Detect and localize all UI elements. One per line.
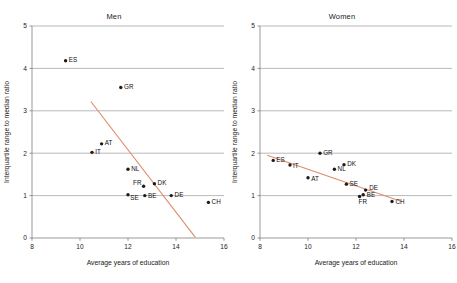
- y-tick-label-4: 4: [251, 65, 255, 72]
- data-point-IT: [288, 163, 291, 166]
- data-point-label-BE: BE: [148, 192, 156, 199]
- data-point-label-IT: IT: [293, 162, 299, 169]
- data-point-GR: [119, 86, 122, 89]
- x-tick-label-8: 8: [258, 243, 262, 250]
- data-point-label-DK: DK: [347, 160, 357, 167]
- data-point-DE: [170, 194, 173, 197]
- data-point-label-GR: GR: [124, 83, 134, 90]
- chart-panel-women: Women 012345810121416Average years of ed…: [228, 0, 456, 283]
- data-point-DK: [153, 182, 156, 185]
- y-tick-label-0: 0: [251, 234, 255, 241]
- x-axis-title: Average years of education: [315, 259, 398, 267]
- data-point-NL: [126, 168, 129, 171]
- data-point-label-SE: SE: [130, 194, 138, 201]
- data-point-label-CH: CH: [395, 198, 405, 205]
- data-point-label-GR: GR: [323, 149, 333, 156]
- trend-line: [91, 101, 195, 237]
- x-axis-title: Average years of education: [87, 259, 170, 267]
- data-point-DK: [342, 163, 345, 166]
- data-point-label-CH: CH: [212, 198, 222, 205]
- figure-container: Men 012345810121416Average years of educ…: [0, 0, 457, 283]
- data-point-ES: [64, 59, 67, 62]
- data-point-label-DK: DK: [158, 179, 168, 186]
- data-point-label-FR: FR: [133, 179, 142, 186]
- y-tick-label-4: 4: [23, 65, 27, 72]
- x-tick-label-16: 16: [448, 243, 456, 250]
- data-point-label-NL: NL: [338, 165, 347, 172]
- y-tick-label-5: 5: [251, 22, 255, 29]
- data-point-FR: [142, 185, 145, 188]
- x-tick-label-16: 16: [220, 243, 228, 250]
- y-tick-label-0: 0: [23, 234, 27, 241]
- data-point-GR: [318, 152, 321, 155]
- data-point-ES: [272, 159, 275, 162]
- y-tick-label-2: 2: [23, 150, 27, 157]
- data-point-label-NL: NL: [131, 165, 140, 172]
- x-tick-label-8: 8: [30, 243, 34, 250]
- y-axis-title: Interquartile range to median ratio: [231, 81, 239, 183]
- data-point-IT: [90, 151, 93, 154]
- y-tick-label-1: 1: [251, 192, 255, 199]
- y-tick-label-3: 3: [23, 107, 27, 114]
- data-point-SE: [345, 182, 348, 185]
- data-point-BE: [362, 193, 365, 196]
- data-point-label-IT: IT: [95, 148, 101, 155]
- data-point-label-AT: AT: [105, 139, 113, 146]
- data-point-label-ES: ES: [276, 156, 284, 163]
- data-point-label-SE: SE: [350, 180, 358, 187]
- x-tick-label-10: 10: [76, 243, 84, 250]
- y-tick-label-5: 5: [23, 22, 27, 29]
- data-point-label-FR: FR: [359, 198, 368, 205]
- scatter-plot-men: 012345810121416Average years of educatio…: [0, 0, 228, 283]
- data-point-SE: [126, 193, 129, 196]
- data-point-label-ES: ES: [69, 56, 77, 63]
- y-tick-label-3: 3: [251, 107, 255, 114]
- x-tick-label-12: 12: [352, 243, 360, 250]
- data-point-AT: [306, 176, 309, 179]
- data-point-label-DE: DE: [175, 191, 184, 198]
- x-tick-label-10: 10: [304, 243, 312, 250]
- data-point-CH: [207, 201, 210, 204]
- data-point-BE: [143, 194, 146, 197]
- x-tick-label-14: 14: [400, 243, 408, 250]
- x-tick-label-14: 14: [172, 243, 180, 250]
- scatter-plot-women: 012345810121416Average years of educatio…: [228, 0, 456, 283]
- y-axis-title: Interquartile range to median ratio: [3, 81, 11, 183]
- chart-panel-men: Men 012345810121416Average years of educ…: [0, 0, 228, 283]
- trend-line: [267, 155, 401, 201]
- data-point-NL: [333, 168, 336, 171]
- y-tick-label-2: 2: [251, 150, 255, 157]
- y-tick-label-1: 1: [23, 192, 27, 199]
- data-point-label-BE: BE: [367, 191, 375, 198]
- data-point-label-AT: AT: [311, 175, 319, 182]
- data-point-CH: [390, 200, 393, 203]
- x-tick-label-12: 12: [124, 243, 132, 250]
- data-point-AT: [100, 142, 103, 145]
